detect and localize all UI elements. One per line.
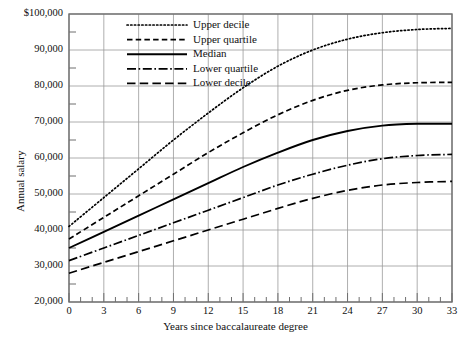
y-tick-label: 70,000: [0, 115, 63, 126]
x-tick-label: 6: [124, 305, 154, 316]
chart-figure: Annual salary Years since baccalaureate …: [0, 0, 471, 341]
chart-canvas: [0, 0, 471, 341]
series-line: [69, 82, 452, 239]
series-line: [69, 181, 452, 273]
x-tick-label: 0: [54, 305, 84, 316]
y-tick-label: 60,000: [0, 151, 63, 162]
x-axis-title: Years since baccalaureate degree: [0, 320, 471, 332]
legend-label: Median: [193, 47, 227, 59]
series-line: [69, 28, 452, 226]
x-tick-label: 33: [437, 305, 467, 316]
series-line: [69, 154, 452, 260]
series-line: [69, 124, 452, 248]
data-series-layer: [69, 28, 452, 273]
legend-label: Upper decile: [193, 18, 250, 30]
x-tick-label: 15: [228, 305, 258, 316]
y-tick-label: 80,000: [0, 79, 63, 90]
y-tick-label: $100,000: [0, 7, 63, 18]
x-tick-label: 21: [298, 305, 328, 316]
x-tick-label: 12: [193, 305, 223, 316]
x-tick-label: 24: [333, 305, 363, 316]
x-tick-label: 30: [402, 305, 432, 316]
legend-label: Lower decile: [193, 76, 251, 88]
x-tick-label: 9: [158, 305, 188, 316]
x-tick-label: 18: [263, 305, 293, 316]
x-tick-label: 3: [89, 305, 119, 316]
gridlines: [69, 14, 452, 302]
y-tick-label: 50,000: [0, 187, 63, 198]
y-tick-label: 30,000: [0, 259, 63, 270]
legend-swatches: [127, 25, 187, 83]
legend-label: Upper quartile: [193, 33, 257, 45]
legend-label: Lower quartile: [193, 62, 258, 74]
y-tick-label: 40,000: [0, 223, 63, 234]
x-tick-label: 27: [367, 305, 397, 316]
y-tick-label: 90,000: [0, 43, 63, 54]
